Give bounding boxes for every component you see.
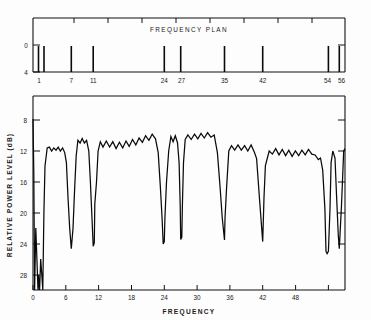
channel-label-56: 56 (338, 77, 346, 84)
frequency-plan-spikes (39, 46, 340, 72)
xtick-label-48: 48 (292, 294, 300, 301)
channel-label-35: 35 (221, 77, 229, 84)
ytick-label-16: 16 (20, 179, 28, 186)
spectrum-xtick-labels: 0 6 12 18 24 30 36 42 48 (31, 294, 299, 301)
y-axis-title: RELATIVE POWER LEVEL (dB) (6, 133, 14, 257)
xtick-label-18: 18 (128, 294, 136, 301)
ytick-label-20: 20 (20, 210, 28, 217)
channel-label-54: 54 (324, 77, 332, 84)
top-panel-y-ticks (33, 45, 345, 72)
ytick-label-28: 28 (20, 272, 28, 279)
frequency-plan-panel: 0 4 FREQUENCY PLAN 1 7 11 (24, 18, 345, 84)
ytick-label-24: 24 (20, 241, 28, 248)
spectrum-trace (33, 119, 345, 290)
xtick-label-0: 0 (31, 294, 35, 301)
ytick-label-12: 12 (20, 148, 28, 155)
frequency-plan-channel-labels: 1 7 11 24 27 35 42 54 56 (37, 77, 345, 84)
channel-label-11: 11 (90, 77, 97, 84)
ytick-label-8: 8 (23, 117, 27, 124)
spectrum-x-ticks (33, 285, 328, 290)
channel-label-27: 27 (178, 77, 186, 84)
xtick-label-42: 42 (259, 294, 267, 301)
frequency-plan-title: FREQUENCY PLAN (150, 26, 228, 34)
xtick-label-30: 30 (194, 294, 202, 301)
top-panel-ytick-0: 0 (24, 42, 28, 49)
spectrum-panel: 8 12 16 20 24 28 0 (6, 96, 345, 316)
channel-label-1: 1 (37, 77, 41, 84)
xtick-label-24: 24 (161, 294, 169, 301)
channel-label-24: 24 (161, 77, 169, 84)
xtick-label-36: 36 (226, 294, 234, 301)
chart-svg: 0 4 FREQUENCY PLAN 1 7 11 (0, 0, 371, 320)
x-axis-title: FREQUENCY (162, 308, 215, 316)
top-panel-ytick-4: 4 (24, 69, 28, 76)
xtick-label-6: 6 (64, 294, 68, 301)
top-border-ticks (74, 18, 312, 23)
xtick-label-12: 12 (95, 294, 103, 301)
channel-label-42: 42 (259, 77, 267, 84)
channel-label-7: 7 (70, 77, 74, 84)
figure-container: 0 4 FREQUENCY PLAN 1 7 11 (0, 0, 371, 320)
spectrum-ytick-labels: 8 12 16 20 24 28 (20, 117, 28, 279)
